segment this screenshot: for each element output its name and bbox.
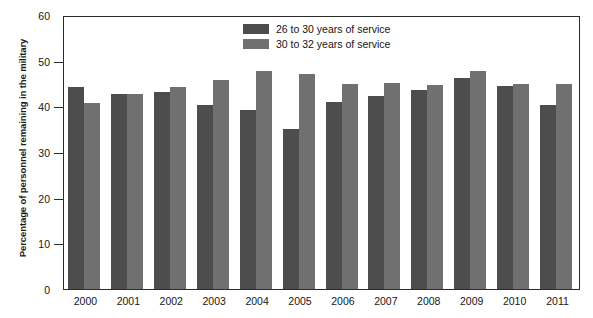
bar [84,103,100,289]
x-axis-label: 2011 [536,294,580,308]
bar [556,84,572,289]
bar-group [279,17,322,289]
bar-group [193,17,236,289]
bar-group [236,17,279,289]
bar [513,84,529,289]
x-axis-label: 2000 [63,294,107,308]
x-axis-label: 2004 [235,294,279,308]
legend-item: 26 to 30 years of service [243,23,390,35]
bar [411,90,427,289]
legend-label: 30 to 32 years of service [276,39,390,50]
legend-swatch [243,24,269,34]
bar [213,80,229,289]
bar-group [536,17,579,289]
y-axis-label: 40 [4,102,50,112]
y-axis-label: 10 [4,239,50,249]
bar-group [150,17,193,289]
bar [197,105,213,289]
x-axis-label: 2008 [407,294,451,308]
x-axis-label: 2007 [364,294,408,308]
y-axis-tick [54,199,63,200]
bar [68,87,84,289]
bar [170,87,186,289]
bar [540,105,556,290]
x-axis-label: 2010 [493,294,537,308]
y-axis-tick [54,244,63,245]
bar [127,94,143,289]
x-axis: 2000200120022003200420052006200720082009… [64,294,579,310]
bar [240,110,256,289]
bar [299,74,315,289]
bar [111,94,127,289]
y-axis-label: 50 [4,57,50,67]
bar-group [64,17,107,289]
y-axis-tick [54,62,63,63]
bar [454,78,470,289]
bar-group [450,17,493,289]
bar [342,84,358,289]
x-axis-label: 2009 [450,294,494,308]
bar-chart: Percentage of personnel remaining in the… [0,0,593,318]
y-axis-tick [54,107,63,108]
bar [256,71,272,289]
bar-group [364,17,407,289]
legend-item: 30 to 32 years of service [243,38,390,50]
bar-group [107,17,150,289]
x-axis-label: 2003 [192,294,236,308]
bar-group [493,17,536,289]
y-axis-label: 20 [4,194,50,204]
legend-swatch [243,39,269,49]
bar [368,96,384,289]
bar [427,85,443,289]
bar [384,83,400,289]
x-axis-label: 2006 [321,294,365,308]
y-axis-tick [54,153,63,154]
x-axis-label: 2001 [106,294,150,308]
y-axis-label: 0 [4,285,50,295]
y-axis-label: 60 [4,11,50,21]
bar [470,71,486,289]
bar [283,129,299,289]
bar-group [407,17,450,289]
bar-group [322,17,365,289]
bar [497,86,513,289]
bars-layer [64,17,579,289]
bar [326,102,342,289]
legend-label: 26 to 30 years of service [276,24,390,35]
y-axis-label: 30 [4,148,50,158]
bar [154,92,170,289]
x-axis-label: 2005 [278,294,322,308]
x-axis-label: 2002 [149,294,193,308]
chart-legend: 26 to 30 years of service30 to 32 years … [243,23,390,50]
